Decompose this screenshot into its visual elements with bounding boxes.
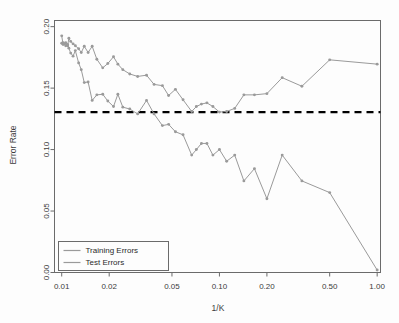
series-point	[205, 101, 208, 104]
series-point	[328, 191, 331, 194]
x-tick-label: 0.10	[212, 282, 228, 291]
plot-frame	[55, 21, 381, 273]
series-point	[174, 130, 177, 133]
series-point	[101, 66, 104, 69]
series-point	[218, 148, 221, 151]
series-point	[200, 142, 203, 145]
series-point	[136, 112, 139, 115]
series-point	[66, 44, 69, 47]
series-point	[242, 93, 245, 96]
series-point	[116, 93, 119, 96]
series-point	[121, 68, 124, 71]
series-point	[136, 75, 139, 78]
series-point	[106, 62, 109, 65]
series-point	[200, 103, 203, 106]
series-point	[72, 42, 75, 45]
series-point	[95, 58, 98, 61]
y-tick-label: 0.05	[42, 203, 51, 219]
series-point	[69, 52, 72, 55]
series-point	[265, 197, 268, 200]
plot-frame-rect	[55, 21, 381, 273]
series-point	[161, 124, 164, 127]
series-point	[265, 92, 268, 95]
series-point	[87, 81, 90, 84]
series-point	[91, 99, 94, 102]
series-point	[128, 73, 131, 76]
series-point	[80, 68, 83, 71]
series-point	[300, 85, 303, 88]
series-point	[195, 105, 198, 108]
chart-legend: Training ErrorsTest Errors	[59, 242, 169, 271]
series-path	[62, 43, 377, 270]
y-tick-label: 0.00	[42, 264, 51, 280]
series-point	[281, 154, 284, 157]
series-point	[72, 55, 75, 58]
series-point	[80, 51, 83, 54]
y-tick-label: 0.20	[42, 18, 51, 34]
series-point	[242, 179, 245, 182]
legend-label: Test Errors	[86, 258, 125, 267]
chart-container: 0.000.050.100.150.20 0.010.020.050.100.2…	[0, 0, 399, 323]
series-point	[116, 63, 119, 66]
y-axis-title: Error Rate	[8, 125, 18, 164]
series-point	[161, 84, 164, 87]
series-point	[195, 148, 198, 151]
y-tick-label: 0.10	[42, 141, 51, 157]
series-point	[60, 34, 63, 37]
series-point	[74, 44, 77, 47]
series-point	[190, 154, 193, 157]
series-point	[182, 98, 185, 101]
series-point	[153, 112, 156, 115]
series-point	[167, 123, 170, 126]
series-point	[328, 58, 331, 61]
series-point	[182, 133, 185, 136]
series-point	[83, 81, 86, 84]
legend-label: Training Errors	[86, 246, 139, 255]
series-point	[145, 74, 148, 77]
series-point	[253, 93, 256, 96]
series-point	[218, 111, 221, 114]
series-point	[300, 179, 303, 182]
series-point	[225, 160, 228, 163]
x-tick-label: 1.00	[369, 282, 385, 291]
series-point	[233, 107, 236, 110]
series-point	[174, 88, 177, 91]
x-tick-label: 0.50	[322, 282, 338, 291]
x-tick-label: 0.05	[164, 282, 180, 291]
series-point	[253, 167, 256, 170]
series-point	[376, 269, 379, 272]
series-point	[211, 105, 214, 108]
series-point	[77, 61, 80, 64]
data-series	[60, 34, 378, 271]
series-point	[77, 47, 80, 50]
series-point	[67, 37, 70, 40]
series-point	[112, 105, 115, 108]
series-point	[83, 45, 86, 48]
series-point	[145, 99, 148, 102]
series-point	[190, 110, 193, 113]
series-point	[64, 41, 67, 44]
x-tick-label: 0.02	[101, 282, 117, 291]
series-point	[167, 94, 170, 97]
series-point	[106, 100, 109, 103]
series-point	[281, 76, 284, 79]
x-axis: 0.010.020.050.100.200.501.00	[54, 273, 386, 291]
series-point	[153, 83, 156, 86]
series-point	[91, 45, 94, 48]
series-point	[225, 110, 228, 113]
series-point	[95, 93, 98, 96]
x-axis-title: 1/K	[212, 303, 225, 313]
y-tick-label: 0.15	[42, 80, 51, 96]
series-point	[74, 49, 77, 52]
series-point	[112, 55, 115, 58]
series-training-errors	[60, 41, 378, 271]
series-point	[121, 106, 124, 109]
series-point	[128, 108, 131, 111]
series-point	[101, 93, 104, 96]
series-point	[205, 142, 208, 145]
knn-error-rate-chart: 0.000.050.100.150.20 0.010.020.050.100.2…	[0, 0, 399, 323]
x-tick-label: 0.01	[54, 282, 70, 291]
series-point	[233, 154, 236, 157]
series-point	[211, 154, 214, 157]
series-point	[376, 63, 379, 66]
